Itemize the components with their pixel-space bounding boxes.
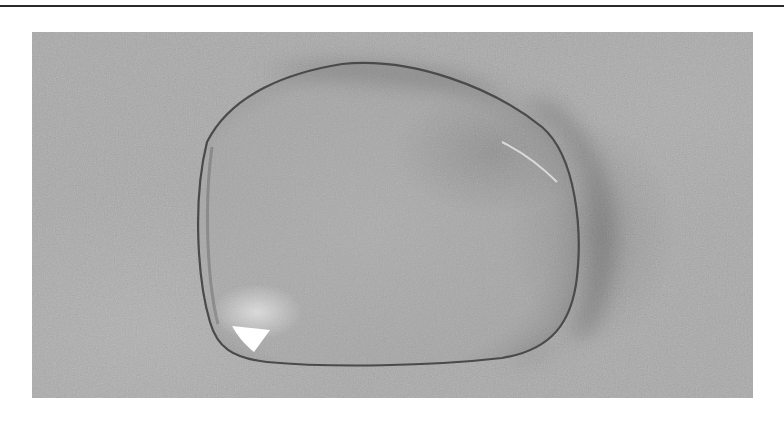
droplet-photo (32, 32, 753, 398)
droplet-illustration (32, 32, 753, 398)
top-rule (0, 5, 784, 7)
